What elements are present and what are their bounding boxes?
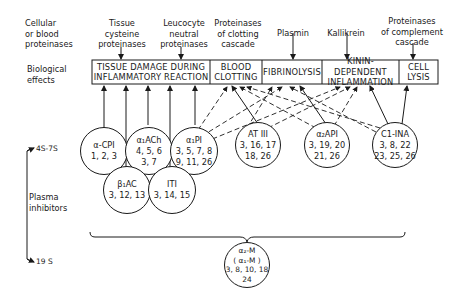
label-line: Tissue xyxy=(96,18,148,29)
label-line: effects xyxy=(27,75,66,86)
inhibitor-name: C1-INA xyxy=(381,129,409,140)
inhibitor-at-iii: AT III 3, 16, 17 18, 26 xyxy=(235,122,281,168)
inhibitor-name: ITI xyxy=(167,179,177,190)
label-line: Biological xyxy=(27,64,66,75)
label-line: INFLAMMATORY REACTION xyxy=(94,72,209,83)
inhibitor-refs: 23, 25, 26 xyxy=(374,151,416,162)
inhibitor-refs: 9, 11, 26 xyxy=(176,157,212,168)
proteinase-complement-cascade: Proteinases of complement cascade xyxy=(376,16,448,48)
inhibitor-name: α₁ACh xyxy=(136,135,161,146)
label-line: cysteine xyxy=(96,29,148,40)
inhibitor-name: α₂API xyxy=(316,129,338,140)
grouping-brace xyxy=(90,232,405,242)
label-line: proteinases xyxy=(96,39,148,50)
inhibitor-name: AT III xyxy=(248,129,268,140)
label-line: proteinases xyxy=(25,39,73,50)
label-line: KININ-DEPENDENT xyxy=(322,56,399,77)
effect-tissue-damage: TISSUE DAMAGE DURINGINFLAMMATORY REACTIO… xyxy=(92,60,210,84)
inhibitor-c1-ina: C1-INA 3, 8, 22 23, 25, 26 xyxy=(372,122,418,168)
proteinase-plasmin: Plasmin xyxy=(272,28,314,39)
inhibitor-refs: 24 xyxy=(242,275,251,285)
inhibitor-refs: 3, 19, 20 xyxy=(309,140,345,151)
label-line: TISSUE DAMAGE DURING xyxy=(94,62,209,73)
label-size-4s-7s: 4S-7S xyxy=(36,144,58,155)
inhibitor-refs: 18, 26 xyxy=(245,151,271,162)
inhibitor-alpha2-api: α₂API 3, 19, 20 21, 26 xyxy=(304,122,350,168)
label-line: CLOTTING xyxy=(214,72,257,83)
label-line: cascade xyxy=(210,39,266,50)
inhibitor-name: α-CPI xyxy=(93,140,114,151)
inhibitor-refs: 1, 2, 3 xyxy=(91,151,117,162)
label-line: inhibitors xyxy=(29,203,67,214)
inhibitor-alpha2-m: α₂-M ( α₁-M ) 3, 8, 10, 18 24 xyxy=(224,242,270,288)
inhibitor-refs: 3, 8, 10, 18 xyxy=(226,265,268,275)
proteinase-kallikrein: Kallikrein xyxy=(318,28,374,39)
inhibitor-refs: 4, 5, 6 xyxy=(136,146,162,157)
label-line: Proteinases xyxy=(210,18,266,29)
proteinase-tissue-cysteine: Tissue cysteine proteinases xyxy=(96,18,148,50)
label-line: INFLAMMATION xyxy=(322,77,399,88)
inhibitor-refs: 3, 12, 13 xyxy=(109,190,145,201)
inhibitor-refs: 3, 14, 15 xyxy=(154,190,190,201)
label-line: Cellular xyxy=(25,18,73,29)
proteinase-clotting-cascade: Proteinases of clotting cascade xyxy=(210,18,266,50)
effect-fibrinolysis: FIBRINOLYSIS xyxy=(262,60,322,84)
effect-blood-clotting: BLOODCLOTTING xyxy=(210,60,262,84)
label-line: Plasma xyxy=(29,192,67,203)
label-line: Proteinases xyxy=(376,16,448,27)
inhibitor-alt-name: ( α₁-M ) xyxy=(233,256,260,266)
inhibitor-refs: 3, 8, 22 xyxy=(379,140,410,151)
label-plasma-inhibitors: Plasma inhibitors xyxy=(29,192,67,213)
inhibitor-name: α₁PI xyxy=(186,135,202,146)
label-line: of complement xyxy=(376,27,448,38)
label-line: or blood xyxy=(25,29,73,40)
inhibitor-refs: 3, 7 xyxy=(141,157,157,168)
label-cellular-proteinases: Cellular or blood proteinases xyxy=(25,18,73,50)
label-line: of clotting xyxy=(210,29,266,40)
label-line: cascade xyxy=(376,37,448,48)
label-line: CELL xyxy=(407,62,430,73)
label-line: neutral xyxy=(156,29,212,40)
effect-cell-lysis: CELLLYSIS xyxy=(399,60,438,84)
label-line: LYSIS xyxy=(407,72,430,83)
label-biological-effects: Biological effects xyxy=(27,64,66,85)
label-line: proteinases xyxy=(156,39,212,50)
inhibitor-name: α₂-M xyxy=(239,246,256,256)
inhibitor-iti: ITI 3, 14, 15 xyxy=(148,166,196,214)
inhibitor-refs: 21, 26 xyxy=(314,151,340,162)
inhibitor-beta1-ac: β₁AC 3, 12, 13 xyxy=(103,166,151,214)
inhibitor-refs: 3, 16, 17 xyxy=(240,140,276,151)
inhibitor-name: β₁AC xyxy=(117,179,137,190)
label-line: BLOOD xyxy=(214,62,257,73)
label-line: Leucocyte xyxy=(156,18,212,29)
label-size-19s: 19 S xyxy=(36,257,53,268)
effect-kinin-inflammation: KININ-DEPENDENTINFLAMMATION xyxy=(322,60,399,84)
proteinase-leucocyte-neutral: Leucocyte neutral proteinases xyxy=(156,18,212,50)
inhibitor-refs: 3, 5, 7, 8 xyxy=(176,146,212,157)
